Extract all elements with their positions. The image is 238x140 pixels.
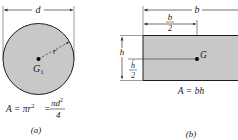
- h-half-denominator: 2: [131, 71, 135, 80]
- svg-text:πd2: πd2: [51, 97, 63, 108]
- b-label: b: [195, 4, 200, 15]
- caption-b: (b): [186, 129, 197, 139]
- rectangle-shape: [143, 36, 238, 81]
- centroid-dot-b: [195, 57, 199, 61]
- svg-text:A = πr2: A = πr2: [5, 102, 35, 114]
- figure-a-circle: d r G1 A = πr2 = πd2 4 (a): [3, 4, 74, 135]
- b-half-denominator: 2: [168, 24, 172, 33]
- h-half-numerator: h: [131, 61, 135, 70]
- area-centroid-diagram: d r G1 A = πr2 = πd2 4 (a) b b 2 G: [0, 0, 238, 140]
- h-label: h: [120, 47, 125, 57]
- svg-text:=: =: [44, 104, 50, 114]
- figure-b-rectangle: b b 2 G h h 2 A = bh (b): [118, 4, 238, 139]
- svg-text:4: 4: [56, 110, 61, 120]
- b-half-numerator: b: [168, 12, 173, 22]
- centroid-label-b: G: [200, 50, 207, 60]
- circle-area-formula: A = πr2 = πd2 4: [5, 97, 65, 120]
- r-label: r: [53, 46, 57, 56]
- centroid-dot-a: [37, 57, 41, 61]
- caption-a: (a): [31, 125, 42, 135]
- rectangle-area-formula: A = bh: [177, 86, 205, 96]
